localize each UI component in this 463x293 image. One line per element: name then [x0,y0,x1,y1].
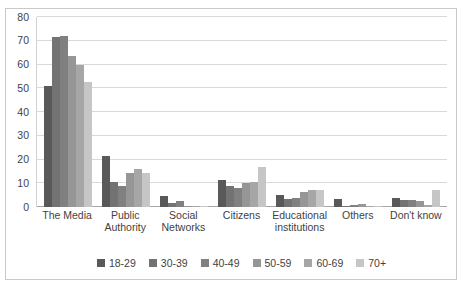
x-tick-label: The Media [38,209,96,233]
bar [342,206,350,207]
legend-item[interactable]: 30-39 [149,258,188,269]
bar [334,199,342,207]
legend-label: 70+ [368,258,386,269]
bar [84,82,92,207]
bar [292,198,300,208]
bar-group [39,17,97,207]
legend-swatch-icon [97,259,105,267]
chart-legend: 18-2930-3940-4950-5960-6970+ [36,258,447,269]
bar [60,36,68,207]
bar [226,186,234,207]
bar [118,186,126,207]
bar-group [329,17,387,207]
bar [242,183,250,207]
bar [400,200,408,207]
bar [316,190,324,207]
y-tick-label: 0 [23,202,29,213]
bar [424,205,432,207]
bar [308,190,316,207]
bar-group [387,17,445,207]
x-tick-label: Others [329,209,387,233]
bar [358,204,366,207]
legend-item[interactable]: 60-69 [304,258,343,269]
bar [276,195,284,207]
legend-label: 60-69 [316,258,343,269]
legend-label: 18-29 [109,258,136,269]
bar [192,206,200,207]
y-tick-label: 60 [17,59,29,70]
bar [76,65,84,208]
bar-group [155,17,213,207]
legend-swatch-icon [149,259,157,267]
bar [258,167,266,207]
plot-area [36,17,447,207]
bar [68,56,76,207]
bar [142,173,150,207]
bar [374,206,382,207]
legend-item[interactable]: 50-59 [253,258,292,269]
bar [160,196,168,207]
x-axis-labels: The MediaPublic AuthoritySocial Networks… [36,209,447,233]
bar-group [97,17,155,207]
bar-group [271,17,329,207]
y-tick-label: 40 [17,107,29,118]
bar [44,86,52,207]
bar [168,203,176,207]
bar [416,201,424,207]
x-tick-label: Don't know [387,209,445,233]
y-tick-label: 80 [17,12,29,23]
bar [176,201,184,207]
bar [350,205,358,207]
y-tick-label: 50 [17,83,29,94]
bar [52,37,60,207]
legend-item[interactable]: 40-49 [201,258,240,269]
bar-chart: 01020304050607080 The MediaPublic Author… [0,0,463,293]
bar [392,198,400,208]
y-tick-label: 70 [17,36,29,47]
bar [432,190,440,207]
bar [300,192,308,207]
legend-item[interactable]: 18-29 [97,258,136,269]
bar [184,206,192,207]
legend-swatch-icon [253,259,261,267]
x-tick-label: Educational institutions [271,209,329,233]
y-tick-label: 20 [17,154,29,165]
legend-label: 40-49 [213,258,240,269]
y-tick-label: 10 [17,178,29,189]
bar [408,200,416,207]
legend-swatch-icon [356,259,364,267]
bar-group [213,17,271,207]
x-tick-label: Public Authority [96,209,154,233]
bar [234,188,242,207]
legend-item[interactable]: 70+ [356,258,386,269]
legend-label: 30-39 [161,258,188,269]
bar-groups [37,17,447,207]
bar [250,182,258,207]
x-tick-label: Social Networks [154,209,212,233]
bar [126,173,134,207]
legend-swatch-icon [201,259,209,267]
bar [218,180,226,207]
bar [134,169,142,207]
x-tick-label: Citizens [212,209,270,233]
y-tick-label: 30 [17,131,29,142]
bar [366,206,374,207]
bar [110,182,118,207]
bar [102,156,110,207]
y-axis-labels: 01020304050607080 [0,17,34,207]
bar [200,206,208,207]
bar [284,199,292,207]
legend-label: 50-59 [265,258,292,269]
legend-swatch-icon [304,259,312,267]
